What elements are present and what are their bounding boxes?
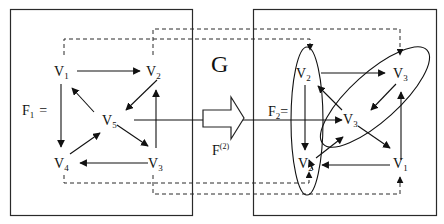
vertex-v5-left: V5	[102, 113, 117, 130]
diagram-canvas: G F(2) F1= V1 V2 V5 V4 V3 F2= V2 V3 V3 V…	[0, 0, 444, 224]
right-graph-clusters	[291, 32, 443, 195]
vertex-v2-left: V2	[146, 64, 161, 81]
f2-label: F2=	[268, 104, 288, 121]
vertex-v1-left: V1	[54, 64, 69, 81]
vertex-v3-right-top: V3	[393, 66, 408, 83]
vertex-v3-left: V3	[148, 156, 163, 173]
transformation-label-g: G	[211, 51, 228, 77]
vertex-v4-left: V4	[54, 156, 69, 173]
f1-label: F1=	[22, 103, 47, 120]
cluster-v3-ellipse	[307, 32, 443, 161]
vertex-v1-right: V1	[393, 156, 408, 173]
hollow-transform-arrow	[203, 97, 244, 139]
vertex-v3-right-mid: V3	[343, 112, 358, 129]
vertex-v2-right-top: V2	[296, 66, 311, 83]
arrow-label-f2: F(2)	[212, 142, 229, 158]
vertex-v2-right-bottom: V2	[298, 156, 313, 173]
